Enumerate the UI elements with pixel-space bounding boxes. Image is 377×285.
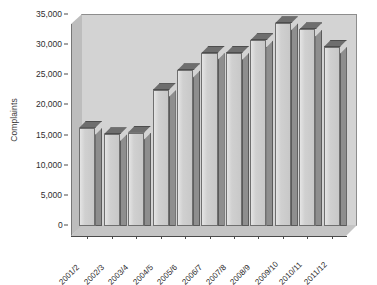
- y-tick-label: 15,000: [36, 130, 62, 140]
- x-tick-label: 2003/4: [106, 263, 130, 285]
- x-tick-mark: [234, 236, 235, 239]
- y-tick-mark: [64, 14, 68, 15]
- bar-front-face: [226, 53, 242, 226]
- y-tick-label: 35,000: [36, 9, 62, 19]
- bar: [153, 90, 169, 226]
- bar-side-face: [95, 128, 102, 226]
- y-axis-title-label: Complaints: [9, 98, 19, 142]
- bar: [128, 133, 144, 226]
- x-tick-mark: [210, 236, 211, 239]
- y-tick-label: 5,000: [41, 190, 62, 200]
- bar-side-face: [315, 29, 322, 226]
- bar-side-face: [266, 40, 273, 226]
- bar-front-face: [201, 53, 217, 226]
- bar: [177, 70, 193, 226]
- x-tick-mark: [258, 236, 259, 239]
- y-tick-label: 10,000: [36, 160, 62, 170]
- y-tick-label: 25,000: [36, 69, 62, 79]
- x-tick-mark: [283, 236, 284, 239]
- x-tick-label: 2005/6: [155, 263, 179, 285]
- bar-front-face: [275, 23, 291, 226]
- x-tick-mark: [332, 236, 333, 239]
- x-tick-label: 2006/7: [180, 263, 204, 285]
- bar-side-face: [242, 53, 249, 226]
- x-tick-mark: [307, 236, 308, 239]
- x-tick-label: 2011/12: [302, 260, 328, 285]
- y-tick-mark: [64, 225, 68, 226]
- bar-top-face: [128, 126, 151, 133]
- y-tick-mark: [64, 44, 68, 45]
- bar: [79, 128, 95, 226]
- bar: [250, 40, 266, 226]
- bar-top-face: [324, 40, 347, 47]
- x-tick-label: 2007/8: [204, 263, 228, 285]
- y-tick-mark: [64, 194, 68, 195]
- x-tick-label: 2009/10: [253, 260, 280, 285]
- bar-top-face: [79, 121, 102, 128]
- y-axis-ticks: 5,00010,00015,00020,00025,00030,00035,00…: [26, 0, 68, 285]
- y-tick-label: 30,000: [36, 39, 62, 49]
- x-tick-mark: [112, 236, 113, 239]
- y-tick-mark: [64, 164, 68, 165]
- bar-side-face: [291, 23, 298, 226]
- x-tick-label: 2002/3: [82, 263, 106, 285]
- bar-top-face: [177, 63, 200, 70]
- bar: [299, 29, 315, 226]
- y-tick-zero-label: 0: [58, 220, 63, 230]
- bar-top-face: [275, 16, 298, 23]
- bar-side-face: [144, 133, 151, 226]
- bar-series: [71, 14, 357, 236]
- bar-front-face: [177, 70, 193, 226]
- y-tick-mark: [64, 134, 68, 135]
- bar-front-face: [153, 90, 169, 226]
- y-tick-mark: [64, 104, 68, 105]
- bar-top-face: [226, 46, 249, 53]
- bar: [226, 53, 242, 226]
- bar-chart: Complaints 5,00010,00015,00020,00025,000…: [0, 0, 377, 285]
- bar: [275, 23, 291, 226]
- bar-side-face: [120, 134, 127, 226]
- bar-front-face: [250, 40, 266, 226]
- x-tick-mark: [161, 236, 162, 239]
- bar-side-face: [340, 47, 347, 226]
- x-tick-mark: [136, 236, 137, 239]
- bar-front-face: [324, 47, 340, 226]
- bar-front-face: [128, 133, 144, 226]
- x-tick-label: 2008/9: [229, 263, 253, 285]
- bar-side-face: [193, 70, 200, 226]
- bar-top-face: [201, 46, 224, 53]
- bar-top-face: [104, 127, 127, 134]
- bar-top-face: [153, 83, 176, 90]
- bar-top-face: [299, 22, 322, 29]
- bar-front-face: [79, 128, 95, 226]
- y-tick-mark: [64, 74, 68, 75]
- y-tick-label: 20,000: [36, 99, 62, 109]
- x-axis-labels: 2001/22002/32003/42004/52005/62006/72007…: [71, 236, 357, 285]
- x-tick-label: 2004/5: [131, 263, 155, 285]
- x-tick-mark: [87, 236, 88, 239]
- bar-front-face: [299, 29, 315, 226]
- y-axis-title: Complaints: [4, 0, 24, 240]
- bar-front-face: [104, 134, 120, 226]
- bar: [104, 134, 120, 226]
- bar-top-face: [250, 33, 273, 40]
- x-tick-mark: [185, 236, 186, 239]
- x-tick-label: 2010/11: [278, 260, 304, 285]
- bar-side-face: [169, 90, 176, 226]
- bar: [324, 47, 340, 226]
- bar-side-face: [218, 53, 225, 226]
- bar: [201, 53, 217, 226]
